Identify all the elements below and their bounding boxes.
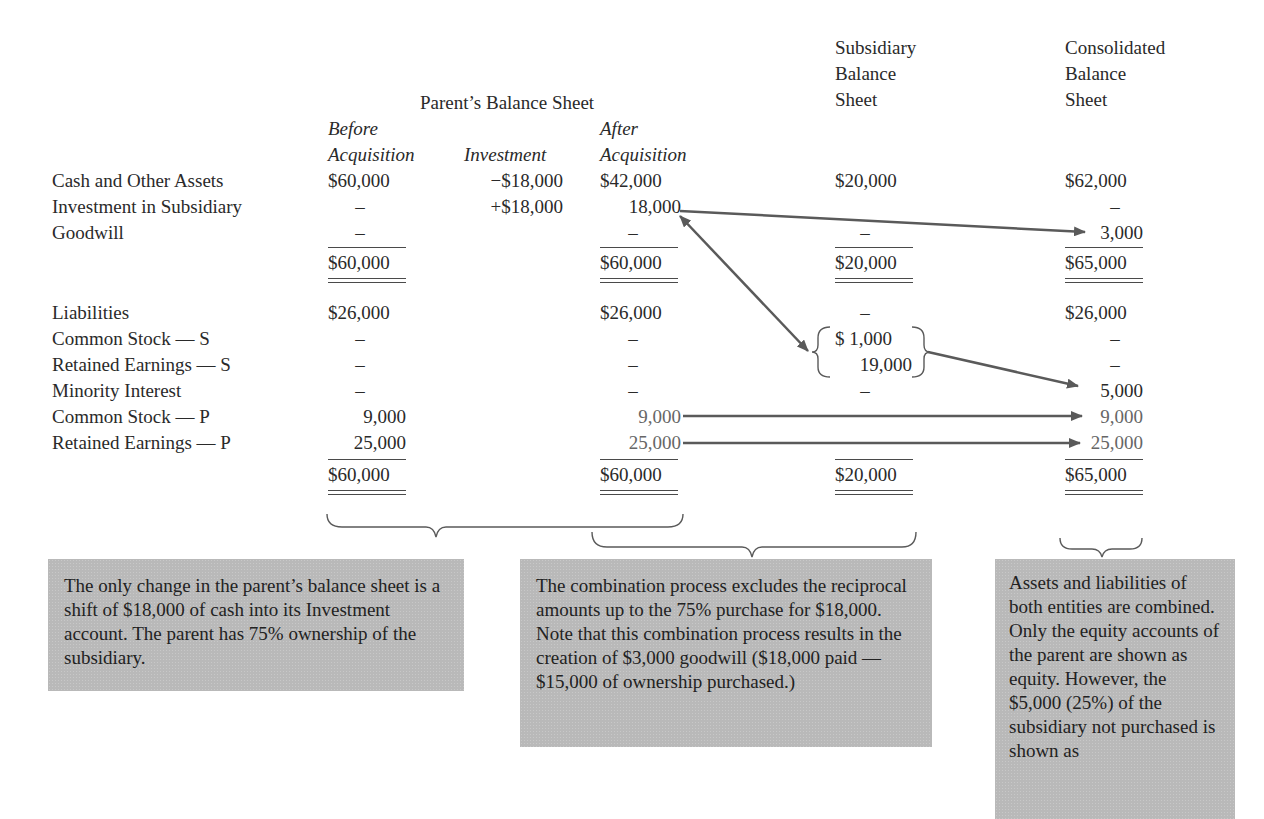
- row-label-retained-earnings-p: Retained Earnings — P: [52, 430, 231, 456]
- brace-combination-columns: [592, 532, 916, 557]
- cs-s-subsidiary: $ 1,000: [835, 326, 892, 352]
- re-p-after: 25,000: [578, 430, 681, 456]
- re-s-subsidiary: 19,000: [820, 352, 912, 378]
- subtotal-rule: [835, 247, 913, 248]
- goodwill-before: –: [315, 220, 405, 246]
- brace-right: [912, 327, 930, 377]
- double-underline: [835, 278, 913, 283]
- liabilities-before: $26,000: [328, 300, 390, 326]
- row-label-goodwill: Goodwill: [52, 220, 124, 246]
- total-equities-before: $60,000: [328, 462, 390, 488]
- double-underline: [1065, 490, 1143, 495]
- investment-header: Investment: [464, 142, 546, 168]
- total-equities-subsidiary: $20,000: [835, 462, 897, 488]
- row-label-retained-earnings-s: Retained Earnings — S: [52, 352, 231, 378]
- parent-balance-sheet-header: Parent’s Balance Sheet: [420, 90, 594, 116]
- double-underline: [328, 490, 406, 495]
- cs-p-after: 9,000: [578, 404, 681, 430]
- cs-s-before: –: [315, 326, 405, 352]
- goodwill-after: –: [588, 220, 678, 246]
- cash-before: $60,000: [328, 168, 434, 194]
- investment-consolidated: –: [1085, 194, 1145, 220]
- row-label-minority-interest: Minority Interest: [52, 378, 181, 404]
- mi-consolidated: 5,000: [1040, 378, 1143, 404]
- total-assets-after: $60,000: [600, 250, 662, 276]
- cash-after: $42,000: [600, 168, 662, 194]
- cs-s-consolidated: –: [1085, 326, 1145, 352]
- cash-subsidiary: $20,000: [835, 168, 897, 194]
- total-assets-before: $60,000: [328, 250, 390, 276]
- liabilities-after: $26,000: [600, 300, 662, 326]
- before-header-line2: Acquisition: [328, 142, 415, 168]
- investment-before: –: [315, 194, 405, 220]
- before-header-line1: Before: [328, 116, 378, 142]
- cs-p-before: 9,000: [300, 404, 406, 430]
- row-label-investment-in-subsidiary: Investment in Subsidiary: [52, 194, 242, 220]
- row-label-common-stock-s: Common Stock — S: [52, 326, 210, 352]
- note-consolidated: Assets and liabilities of both entities …: [995, 559, 1235, 819]
- double-underline: [835, 490, 913, 495]
- cash-investment: −$18,000: [440, 168, 563, 194]
- double-underline: [600, 278, 678, 283]
- row-label-common-stock-p: Common Stock — P: [52, 404, 210, 430]
- subsidiary-header-line1: Subsidiary: [835, 35, 916, 61]
- consolidated-header-line2: Balance: [1065, 61, 1126, 87]
- total-assets-consolidated: $65,000: [1065, 250, 1127, 276]
- subtotal-rule: [328, 459, 406, 460]
- re-s-before: –: [315, 352, 405, 378]
- total-assets-subsidiary: $20,000: [835, 250, 897, 276]
- mi-before: –: [315, 378, 405, 404]
- goodwill-consolidated: 3,000: [1040, 220, 1143, 246]
- re-p-before: 25,000: [300, 430, 406, 456]
- subtotal-rule: [328, 247, 406, 248]
- subsidiary-header-line3: Sheet: [835, 87, 877, 113]
- cs-s-after: –: [588, 326, 678, 352]
- subsidiary-header-line2: Balance: [835, 61, 896, 87]
- double-underline: [328, 278, 406, 283]
- mi-after: –: [588, 378, 678, 404]
- consolidated-header-line3: Sheet: [1065, 87, 1107, 113]
- subtotal-rule: [835, 459, 913, 460]
- row-label-cash: Cash and Other Assets: [52, 168, 224, 194]
- note-parent: The only change in the parent’s balance …: [48, 559, 464, 691]
- liabilities-consolidated: $26,000: [1065, 300, 1127, 326]
- re-p-consolidated: 25,000: [1040, 430, 1143, 456]
- investment-investment: +$18,000: [440, 194, 563, 220]
- brace-consolidated-column: [1060, 538, 1142, 557]
- subtotal-rule: [600, 247, 678, 248]
- after-header-line1: After: [600, 116, 638, 142]
- subtotal-rule: [1065, 459, 1143, 460]
- consolidated-header-line1: Consolidated: [1065, 35, 1165, 61]
- total-equities-after: $60,000: [600, 462, 662, 488]
- goodwill-subsidiary: –: [820, 220, 910, 246]
- liabilities-subsidiary: –: [820, 300, 910, 326]
- re-s-consolidated: –: [1085, 352, 1145, 378]
- subtotal-rule: [600, 459, 678, 460]
- note-combination: The combination process excludes the rec…: [520, 559, 932, 747]
- mi-subsidiary: –: [820, 378, 910, 404]
- after-header-line2: Acquisition: [600, 142, 687, 168]
- row-label-liabilities: Liabilities: [52, 300, 129, 326]
- subtotal-rule: [1065, 247, 1143, 248]
- brace-parent-columns: [327, 514, 683, 537]
- re-s-after: –: [588, 352, 678, 378]
- cash-consolidated: $62,000: [1065, 168, 1127, 194]
- investment-after: 18,000: [578, 194, 681, 220]
- double-underline: [1065, 278, 1143, 283]
- arrow-investment-elimination: [680, 216, 808, 351]
- total-equities-consolidated: $65,000: [1065, 462, 1127, 488]
- double-underline: [600, 490, 678, 495]
- cs-p-consolidated: 9,000: [1040, 404, 1143, 430]
